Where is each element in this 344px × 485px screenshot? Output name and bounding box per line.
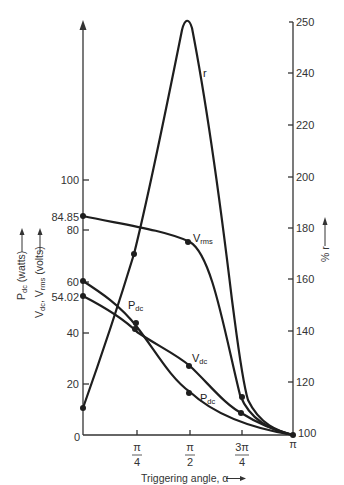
tick-label: 54.02 bbox=[51, 291, 79, 303]
curve-r bbox=[83, 21, 293, 435]
tick-label: π bbox=[133, 441, 141, 453]
tick-label: 84.85 bbox=[51, 211, 79, 223]
tick-label: 200 bbox=[296, 171, 314, 183]
x-ticks bbox=[137, 430, 242, 435]
tick-label: π bbox=[289, 438, 297, 450]
tick-label: 0 bbox=[74, 431, 80, 443]
tick-label: 240 bbox=[296, 67, 314, 79]
tick-label: 40 bbox=[67, 327, 79, 339]
x-tick-labels: π 4 π 2 3π 4 π bbox=[132, 438, 297, 468]
x-axis-title: Triggering angle, α bbox=[141, 472, 228, 484]
label-vrms: Vrms bbox=[193, 232, 213, 246]
tick-label: 100 bbox=[61, 174, 79, 186]
tick-label: 180 bbox=[296, 222, 314, 234]
tick-label: 250 bbox=[296, 16, 314, 28]
chart: 0 20 40 54.02 60 80 84.85 100 250 240 22… bbox=[0, 0, 344, 485]
tick-label: π bbox=[186, 441, 194, 453]
left-axis-arrow-icon bbox=[80, 20, 87, 30]
label-r: r bbox=[203, 67, 207, 79]
tick-label: 60 bbox=[67, 276, 79, 288]
tick-label: 80 bbox=[67, 224, 79, 236]
label-pdc-lower: Pdc bbox=[200, 392, 216, 406]
right-axis-title: % r bbox=[319, 217, 331, 262]
tick-label: 100 bbox=[298, 427, 316, 439]
tick-label: 20 bbox=[67, 378, 79, 390]
tick-label: 2 bbox=[187, 456, 193, 468]
svg-text:Pdc (watts): Pdc (watts) bbox=[15, 251, 29, 300]
label-vdc: Vdc bbox=[192, 352, 208, 366]
tick-label: 4 bbox=[134, 456, 140, 468]
tick-label: 220 bbox=[296, 119, 314, 131]
tick-label: 3π bbox=[235, 441, 249, 453]
svg-text:% r: % r bbox=[319, 246, 331, 262]
tick-label: 140 bbox=[296, 325, 314, 337]
curve-vrms bbox=[83, 216, 293, 435]
right-tick-labels: 250 240 220 200 180 160 140 120 100 bbox=[296, 16, 316, 439]
label-pdc-upper: Pdc bbox=[128, 299, 144, 313]
left-axis-title: Pdc (watts) Vdc, Vrms (volts) bbox=[15, 228, 47, 318]
right-ticks bbox=[288, 73, 293, 382]
x-axis-arrowhead-icon bbox=[240, 476, 246, 481]
left-tick-labels: 0 20 40 54.02 60 80 84.85 100 bbox=[51, 174, 80, 443]
curve-pdc bbox=[83, 281, 293, 435]
tick-label: 4 bbox=[239, 456, 245, 468]
tick-label: 160 bbox=[296, 273, 314, 285]
tick-label: 120 bbox=[296, 376, 314, 388]
svg-text:Vdc, Vrms (volts): Vdc, Vrms (volts) bbox=[33, 246, 47, 318]
